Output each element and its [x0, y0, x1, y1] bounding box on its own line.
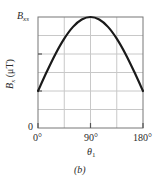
y-tick-zero-label: 0	[28, 122, 33, 132]
y-axis-label: Bx (μT)	[4, 59, 17, 89]
x-axis-label-sub: 1	[92, 151, 96, 159]
x-axis-label: θ1	[87, 147, 95, 160]
y-axis-label-unit: (μT)	[4, 59, 15, 77]
x-tick-90-label: 90°	[84, 133, 98, 143]
y-axis-label-sub: x	[9, 80, 17, 83]
x-tick-0-label: 0°	[33, 133, 42, 143]
x-tick-180-label: 180°	[133, 133, 152, 143]
chart-plot-area	[0, 0, 158, 178]
y-tick-max-sub: xs	[23, 15, 29, 23]
grid-lines	[38, 17, 143, 128]
y-axis-label-main: B	[4, 83, 15, 89]
y-tick-max-label: Bxs	[17, 11, 29, 24]
panel-label: (b)	[74, 165, 86, 175]
